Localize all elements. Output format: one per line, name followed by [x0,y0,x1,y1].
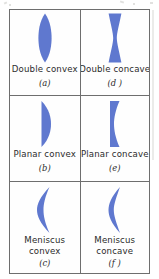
scan-artifacts [0,0,159,9]
lens-label: Planar convex [13,149,76,160]
lens-cell-meniscus-concave: Meniscus concave (f ) [80,181,150,273]
lens-cell-planar-concave: Planar concave (e) [80,95,150,181]
lens-label: Double concave [80,64,150,75]
lens-label: Meniscus concave [94,235,135,256]
lens-label-line1: Meniscus [94,235,135,245]
scan-speck [150,2,153,4]
lens-label-line1: Meniscus [24,235,65,245]
lens-cell-meniscus-convex: Meniscus convex (c) [10,181,80,273]
lens-tag: (c) [39,258,50,268]
lens-tag: (d ) [107,78,122,88]
scan-speck [4,1,8,4]
lens-cell-double-concave: Double concave (d ) [80,10,150,95]
lens-planar-concave-icon [100,99,130,149]
scan-speck [120,0,124,3]
lens-label: Double convex [12,64,78,75]
lens-planar-convex-icon [30,99,60,149]
lens-tag: (e) [109,163,121,173]
lens-tag: (b) [39,163,51,173]
scan-speck [9,4,11,6]
lens-double-convex-icon [30,12,60,64]
scan-speck [133,3,135,5]
lens-cell-planar-convex: Planar convex (b) [10,95,80,181]
page-edge-shadow [152,10,154,160]
lens-tag: (a) [39,78,51,88]
lens-meniscus-concave-icon [99,185,131,235]
lens-label-line2: convex [29,246,61,256]
lens-label: Meniscus convex [24,235,65,256]
lens-meniscus-convex-icon [29,185,61,235]
lens-label: Planar concave [81,149,149,160]
lens-cell-double-convex: Double convex (a) [10,10,80,95]
lens-label-line2: concave [96,246,133,256]
lens-double-concave-icon [100,12,130,64]
lens-types-table: Double convex (a) Double concave (d ) Pl… [9,9,150,274]
lens-tag: (f ) [109,258,121,268]
